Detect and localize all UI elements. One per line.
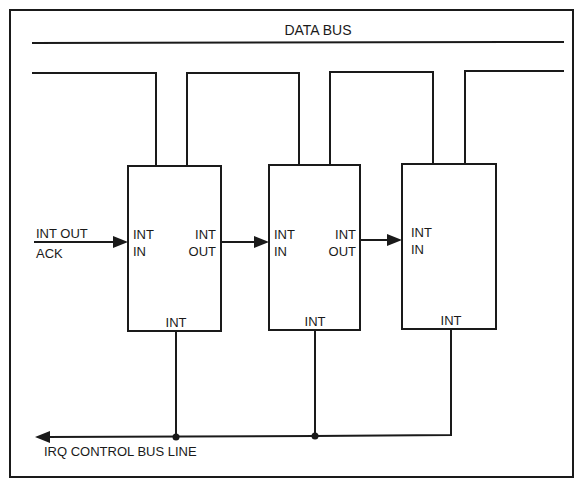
device-1-int-out-label: INT (195, 227, 216, 242)
device-3-int-in-label: INT (411, 225, 432, 240)
device-1-in-label: IN (133, 244, 146, 259)
device-1-out-label: OUT (189, 244, 217, 259)
device-2-int-bottom-label: INT (305, 314, 326, 329)
bus-segment-2 (187, 73, 299, 166)
daisy-chain-diagram: DATA BUS INT IN INT OUT INT INT IN INT O… (0, 0, 581, 487)
device-2-int-in-label: INT (274, 227, 295, 242)
bus-segment-3 (330, 72, 433, 165)
device-3-in-label: IN (411, 242, 424, 257)
input-int-out-label: INT OUT (36, 226, 88, 241)
device-2-int-out-label: INT (335, 227, 356, 242)
input-ack-label: ACK (36, 246, 63, 261)
data-bus-line (33, 42, 563, 43)
device-2-out-label: OUT (329, 244, 357, 259)
device-3-int-line (315, 329, 451, 436)
device-2-in-label: IN (274, 244, 287, 259)
irq-bus-line (46, 436, 315, 437)
device-3: INT IN INT (402, 164, 496, 329)
device-1: INT IN INT OUT INT (128, 166, 221, 331)
chain-arrow-1-2-head-icon (254, 236, 269, 248)
irq-arrowhead-icon (35, 431, 50, 443)
data-bus-label: DATA BUS (284, 22, 351, 38)
device-1-int-in-label: INT (133, 227, 154, 242)
irq-bus-label: IRQ CONTROL BUS LINE (44, 444, 197, 459)
chain-arrow-2-3-head-icon (387, 234, 402, 246)
input-arrowhead-icon (113, 236, 128, 248)
device-3-int-bottom-label: INT (441, 313, 462, 328)
junction-dot-1 (173, 434, 180, 441)
device-1-int-bottom-label: INT (166, 315, 187, 330)
bus-segment-4 (465, 71, 563, 164)
device-2: INT IN INT OUT INT (269, 165, 360, 330)
junction-dot-2 (312, 433, 319, 440)
bus-segment-1 (33, 73, 156, 166)
